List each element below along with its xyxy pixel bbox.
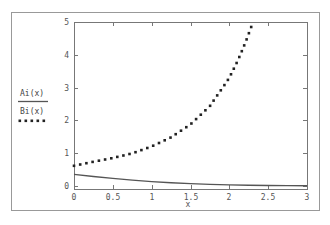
bi-dot	[122, 154, 125, 157]
legend-dot	[25, 120, 28, 123]
bi-dot	[91, 161, 94, 164]
bi-dot	[200, 113, 203, 116]
bi-dot	[140, 149, 143, 152]
y-tick-label: 2	[64, 116, 69, 125]
bi-dot	[245, 38, 248, 41]
legend-dot	[19, 120, 22, 123]
bi-dot	[212, 99, 215, 102]
legend-label-bi: Bi(x)	[20, 107, 44, 116]
bi-dot	[220, 89, 223, 92]
plot-frame	[75, 23, 308, 190]
legend: Ai(x) Bi(x)	[18, 89, 48, 122]
bi-dot	[216, 94, 219, 97]
bi-dot	[230, 73, 233, 76]
bi-dot	[163, 139, 166, 142]
bi-dot	[85, 162, 88, 165]
bi-dot	[73, 165, 76, 168]
bi-dot	[104, 158, 107, 161]
bi-dot	[227, 79, 230, 82]
legend-dot	[37, 120, 40, 123]
bi-dot	[180, 129, 183, 132]
bi-dot	[98, 159, 101, 162]
legend-swatch-bi	[19, 120, 46, 123]
x-tick-label: 2	[227, 193, 232, 202]
bi-dot	[233, 67, 236, 70]
series-ai-line	[74, 174, 307, 185]
bi-dot	[238, 56, 241, 59]
x-tick-label: 0	[72, 193, 77, 202]
y-tick-label: 0	[64, 182, 69, 191]
bi-dot	[209, 105, 212, 108]
airy-function-chart: 00.511.522.53012345 Ai(x) Bi(x) x	[0, 0, 330, 225]
bi-dot	[174, 133, 177, 136]
bi-dot	[241, 50, 244, 53]
bi-dot	[79, 163, 82, 166]
bi-dot	[190, 122, 193, 125]
y-tick-label: 3	[64, 84, 69, 93]
bi-dot	[158, 142, 161, 145]
y-tick-label: 4	[64, 51, 69, 60]
x-axis-label: x	[186, 200, 191, 209]
y-tick-label: 1	[64, 149, 69, 158]
bi-dot	[134, 151, 137, 154]
bi-dot	[128, 153, 131, 156]
bi-dot	[152, 144, 155, 147]
bi-dot	[146, 147, 149, 150]
legend-label-ai: Ai(x)	[20, 89, 44, 98]
legend-dot	[43, 120, 46, 123]
bi-dot	[169, 136, 172, 139]
bi-dot	[204, 109, 207, 112]
legend-dot	[31, 120, 34, 123]
series-bi-dots	[73, 26, 253, 167]
bi-dot	[243, 44, 246, 47]
plot-area: 00.511.522.53012345	[64, 18, 309, 202]
y-tick-label: 5	[64, 18, 69, 27]
x-tick-label: 1	[150, 193, 155, 202]
outer-frame	[12, 13, 320, 211]
bi-dot	[235, 62, 238, 65]
bi-dot	[248, 32, 251, 35]
bi-dot	[250, 26, 253, 29]
bi-dot	[223, 84, 226, 87]
bi-dot	[110, 157, 113, 160]
bi-dot	[116, 156, 119, 159]
bi-dot	[195, 118, 198, 121]
bi-dot	[185, 126, 188, 129]
x-tick-label: 2.5	[261, 193, 276, 202]
x-tick-label: 3	[305, 193, 310, 202]
x-tick-label: 0.5	[106, 193, 121, 202]
